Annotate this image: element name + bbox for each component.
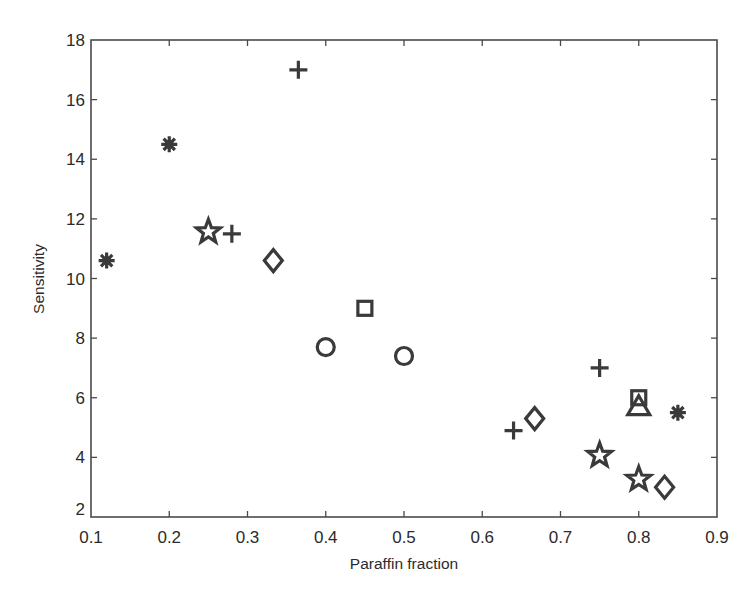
star-marker-icon <box>588 443 612 466</box>
asterisk-marker-icon <box>670 405 686 421</box>
y-tick-label: 4 <box>76 448 85 467</box>
x-tick-label: 0.5 <box>392 528 416 547</box>
x-tick-label: 0.1 <box>79 528 103 547</box>
y-tick-label: 10 <box>66 270 85 289</box>
x-tick-label: 0.7 <box>549 528 573 547</box>
y-axis-label: Sensitivity <box>30 244 47 314</box>
y-tick-label: 6 <box>76 389 85 408</box>
y-tick-label: 14 <box>66 150 85 169</box>
star-marker-icon <box>627 467 651 490</box>
diamond-marker-icon <box>526 408 544 430</box>
data-markers <box>99 61 686 498</box>
plus-marker-icon <box>223 225 241 243</box>
axes-frame <box>91 40 717 517</box>
y-tick-label: 2 <box>76 500 85 519</box>
asterisk-marker-icon <box>99 253 115 269</box>
x-tick-label: 0.8 <box>627 528 651 547</box>
scatter-chart: 0.10.20.30.40.50.60.70.80.9 246810121416… <box>0 0 756 600</box>
y-tick-label: 16 <box>66 91 85 110</box>
x-tick-label: 0.2 <box>157 528 181 547</box>
circle-marker-icon <box>396 348 413 365</box>
square-marker-icon <box>358 301 372 315</box>
star-marker-icon <box>196 219 220 242</box>
x-tick-label: 0.6 <box>470 528 494 547</box>
x-tick-label: 0.9 <box>705 528 729 547</box>
x-tick-label: 0.4 <box>314 528 338 547</box>
x-axis-label: Paraffin fraction <box>350 555 458 572</box>
x-tick-label: 0.3 <box>236 528 260 547</box>
y-tick-label: 18 <box>66 31 85 50</box>
plus-marker-icon <box>505 422 523 440</box>
diamond-marker-icon <box>264 250 282 272</box>
asterisk-marker-icon <box>161 136 177 152</box>
plot-axes: 0.10.20.30.40.50.60.70.80.9 246810121416… <box>66 31 729 547</box>
plus-marker-icon <box>591 359 609 377</box>
y-tick-label: 8 <box>76 329 85 348</box>
plus-marker-icon <box>289 61 307 79</box>
y-tick-label: 12 <box>66 210 85 229</box>
y-axis-ticks: 24681012141618 <box>66 31 717 519</box>
diamond-marker-icon <box>656 476 674 498</box>
circle-marker-icon <box>317 339 334 356</box>
x-axis-ticks: 0.10.20.30.40.50.60.70.80.9 <box>79 40 729 547</box>
